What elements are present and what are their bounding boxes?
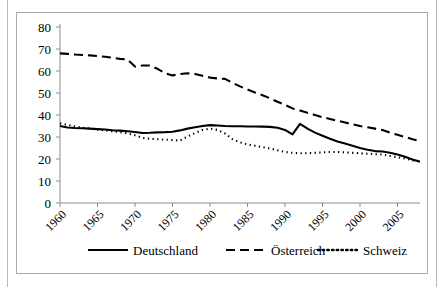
y-axis-tick-labels: 01020304050607080 xyxy=(38,20,51,211)
x-tick-label: 2005 xyxy=(380,207,407,234)
x-tick-label: 1995 xyxy=(305,207,332,234)
legend-label-schweiz: Schweiz xyxy=(363,243,407,258)
x-tick-label: 1990 xyxy=(267,207,294,234)
x-tick-label: 1985 xyxy=(230,207,257,234)
y-axis-tick-marks xyxy=(56,27,60,203)
x-axis-tick-marks xyxy=(60,203,398,207)
y-tick-label: 60 xyxy=(38,64,51,79)
y-tick-label: 70 xyxy=(38,42,51,57)
y-tick-label: 30 xyxy=(38,130,51,145)
x-tick-label: 1960 xyxy=(42,207,69,234)
series-line-schweiz xyxy=(60,123,420,161)
x-tick-label: 1965 xyxy=(80,207,107,234)
y-tick-label: 40 xyxy=(38,108,51,123)
y-tick-label: 0 xyxy=(45,196,52,211)
chart-legend: DeutschlandÖsterreichSchweiz xyxy=(88,243,407,258)
x-tick-label: 2000 xyxy=(342,207,369,234)
y-tick-label: 80 xyxy=(38,20,51,35)
data-series-group xyxy=(60,53,420,161)
y-tick-label: 50 xyxy=(38,86,51,101)
x-tick-label: 1980 xyxy=(192,207,219,234)
legend-label-deutschland: Deutschland xyxy=(133,243,198,258)
series-line-deutschland xyxy=(60,124,420,162)
figure-root: 01020304050607080 1960196519701975198019… xyxy=(0,0,444,287)
x-tick-label: 1975 xyxy=(155,207,182,234)
y-tick-label: 10 xyxy=(38,174,51,189)
y-tick-label: 20 xyxy=(38,152,51,167)
series-line-sterreich xyxy=(60,53,420,141)
x-axis-tick-labels: 1960196519701975198019851990199520002005 xyxy=(42,207,406,234)
line-chart: 01020304050607080 1960196519701975198019… xyxy=(16,12,428,274)
x-tick-label: 1970 xyxy=(117,207,144,234)
